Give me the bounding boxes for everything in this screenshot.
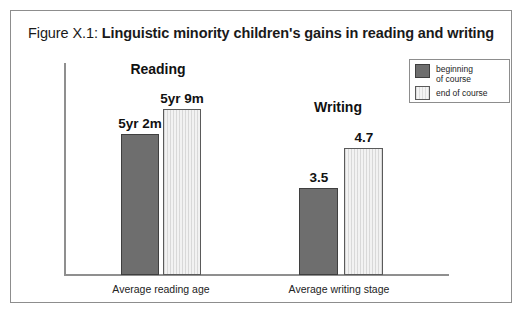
legend-swatch-beginning-icon: [415, 64, 430, 78]
plot-area: Reading Writing 5yr 2m 5yr 9m 3.5 4.7 Av…: [11, 11, 511, 302]
chart-legend: beginning of course end of course: [409, 59, 510, 103]
bar-writing-end: [344, 148, 383, 275]
legend-item-end: end of course: [415, 86, 488, 100]
legend-label-end: end of course: [436, 88, 488, 98]
group-header-reading: Reading: [103, 61, 213, 77]
bar-reading-beginning: [121, 134, 159, 275]
legend-item-beginning: beginning of course: [415, 64, 473, 85]
bar-writing-beginning: [299, 188, 338, 275]
legend-swatch-end-icon: [415, 86, 430, 100]
legend-label-beginning: beginning of course: [436, 64, 473, 85]
x-axis-label-reading: Average reading age: [81, 283, 241, 295]
figure-frame: Figure X.1: Linguistic minority children…: [10, 10, 512, 303]
bar-value-reading-beginning: 5yr 2m: [105, 116, 175, 131]
x-axis-label-writing: Average writing stage: [259, 283, 419, 295]
bar-value-writing-beginning: 3.5: [293, 170, 345, 185]
bar-value-reading-end: 5yr 9m: [147, 91, 217, 106]
group-header-writing: Writing: [283, 99, 393, 115]
bar-value-writing-end: 4.7: [338, 130, 390, 145]
y-axis-line: [64, 63, 66, 276]
bar-reading-end: [163, 109, 201, 275]
